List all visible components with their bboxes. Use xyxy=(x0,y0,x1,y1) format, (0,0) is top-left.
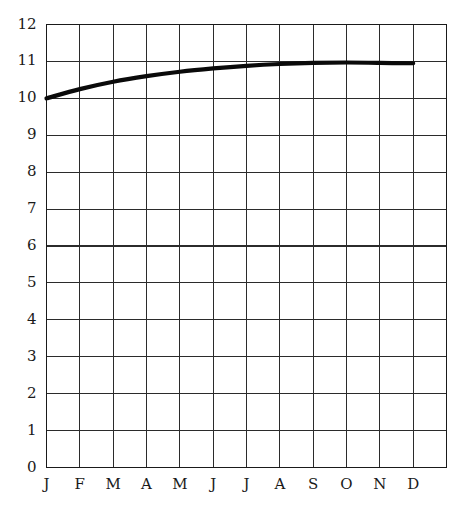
x-axis-tick-label: A xyxy=(140,475,152,493)
y-axis-tick-label: 10 xyxy=(17,88,36,106)
x-axis-tick-label: O xyxy=(340,475,352,493)
x-axis-tick-label: M xyxy=(172,475,187,493)
y-axis-tick-label: 12 xyxy=(17,15,36,33)
y-axis-tick-label: 11 xyxy=(17,51,36,69)
x-axis-tick-label: A xyxy=(273,475,285,493)
x-axis-tick-label: J xyxy=(41,475,49,493)
x-axis-tick-label: M xyxy=(105,475,120,493)
x-axis-tick-label: F xyxy=(75,475,85,493)
y-axis-tick-label: 1 xyxy=(27,421,37,439)
x-axis-tick-label: J xyxy=(208,475,216,493)
y-axis-tick-label: 3 xyxy=(27,347,37,365)
y-axis-tick-label: 6 xyxy=(27,236,37,254)
line-chart: 0123456789101112 JFMAMJJASOND xyxy=(0,0,474,507)
y-axis-tick-label: 4 xyxy=(27,310,37,328)
y-axis-tick-label: 0 xyxy=(27,458,37,476)
y-axis-tick-label: 5 xyxy=(27,273,37,291)
x-axis-tick-label: J xyxy=(241,475,249,493)
chart-canvas: 0123456789101112 JFMAMJJASOND xyxy=(0,0,474,507)
y-axis-tick-label: 8 xyxy=(27,162,37,180)
x-axis-tick-label: S xyxy=(308,475,318,493)
y-axis-tick-label: 2 xyxy=(27,384,37,402)
x-axis-tick-label: N xyxy=(373,475,386,493)
x-axis-tick-label: D xyxy=(407,475,419,493)
y-axis-tick-label: 7 xyxy=(27,199,37,217)
y-axis-tick-label: 9 xyxy=(27,125,37,143)
